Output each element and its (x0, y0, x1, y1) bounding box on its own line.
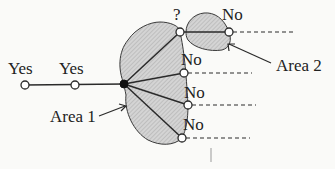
node-yes-1 (21, 81, 29, 89)
label-area-1: Area 1 (50, 108, 96, 125)
label-no-3: No (183, 116, 204, 133)
area-2-arrow (229, 44, 271, 63)
label-no-1: No (181, 51, 202, 68)
label-yes-2: Yes (59, 60, 84, 77)
node-yes-2 (71, 81, 79, 89)
node-no-1 (180, 69, 188, 77)
label-yes-1: Yes (8, 60, 33, 77)
decision-tree-diagram: Yes Yes ? No No No No Area 1 Area 2 (0, 0, 335, 169)
diagram-graphics (0, 0, 335, 169)
node-no-top (225, 28, 233, 36)
node-no-2 (184, 101, 192, 109)
label-area-2: Area 2 (276, 57, 322, 74)
label-question: ? (173, 6, 181, 23)
node-decision-black (120, 80, 128, 88)
node-question (176, 28, 184, 36)
label-no-2: No (184, 84, 205, 101)
label-no-top: No (222, 6, 243, 23)
node-no-3 (178, 134, 186, 142)
